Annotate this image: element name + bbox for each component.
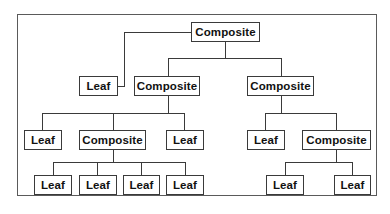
node-leaf: Leaf: [334, 175, 371, 195]
node-leaf: Leaf: [24, 130, 62, 150]
node-leaf: Leaf: [266, 175, 304, 195]
composite-tree-diagram: Composite Leaf Composite Composite Leaf …: [0, 0, 390, 214]
node-leaf: Leaf: [247, 130, 285, 150]
node-composite-root: Composite: [191, 22, 260, 42]
node-leaf: Leaf: [34, 175, 72, 195]
node-leaf: Leaf: [166, 130, 204, 150]
node-leaf: Leaf: [166, 175, 204, 195]
node-composite: Composite: [247, 76, 314, 96]
node-composite: Composite: [302, 130, 371, 150]
node-leaf: Leaf: [79, 175, 117, 195]
node-leaf: Leaf: [123, 175, 160, 195]
node-leaf: Leaf: [79, 76, 118, 96]
node-composite: Composite: [79, 130, 146, 150]
node-composite: Composite: [134, 76, 200, 96]
